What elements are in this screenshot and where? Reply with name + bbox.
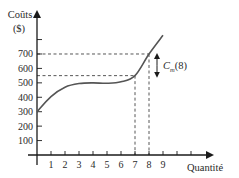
x-tick-label: 6	[119, 159, 124, 170]
x-tick-label: 1	[49, 159, 54, 170]
x-tick-label: 5	[105, 159, 110, 170]
axes	[28, 14, 210, 165]
x-tick-label: 4	[91, 159, 96, 170]
y-tick-label: 300	[18, 106, 33, 117]
y-tick-label: 500	[18, 77, 33, 88]
x-tick-label: 3	[77, 159, 82, 170]
y-tick-label: 600	[18, 63, 33, 74]
cost-chart: 123456789100200300400500600700 Cm(8) Coû…	[0, 0, 239, 178]
y-axis-unit: ($)	[13, 23, 26, 35]
total-cost-line	[37, 35, 163, 111]
y-tick-label: 400	[18, 92, 33, 103]
axis-labels: Coûts($)Quantité	[8, 9, 224, 173]
x-tick-label: 8	[147, 159, 152, 170]
x-axis-title: Quantité	[187, 162, 223, 173]
y-tick-label: 200	[18, 121, 33, 132]
y-axis-title: Coûts	[8, 9, 33, 20]
x-tick-label: 9	[161, 159, 166, 170]
y-tick-label: 700	[18, 48, 33, 59]
x-tick-label: 7	[133, 159, 138, 170]
marginal-cost-label: Cm(8)	[163, 60, 187, 73]
y-tick-label: 100	[18, 135, 33, 146]
dashed-guides	[37, 54, 149, 155]
cost-curve	[37, 35, 163, 111]
x-tick-label: 2	[63, 159, 68, 170]
marginal-cost-annotation: Cm(8)	[157, 56, 187, 75]
